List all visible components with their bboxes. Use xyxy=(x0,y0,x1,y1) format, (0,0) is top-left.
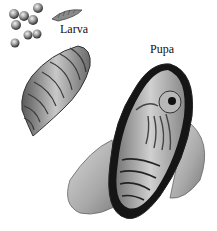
life-cycle-drawing xyxy=(0,0,217,231)
larva-label: Larva xyxy=(60,22,88,37)
larva xyxy=(22,46,91,136)
eggs xyxy=(9,3,43,48)
small-larva xyxy=(52,10,82,21)
pupa-label: Pupa xyxy=(150,42,174,57)
illustration-canvas: Larva Pupa xyxy=(0,0,217,231)
